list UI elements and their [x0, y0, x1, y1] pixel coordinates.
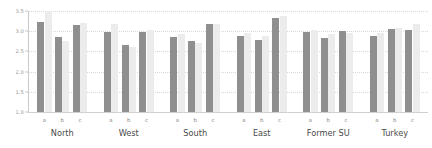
bar-subgroup [36, 11, 54, 112]
bar-subgroup [319, 11, 337, 112]
bar-subgroup [102, 11, 120, 112]
bar-subgroup [204, 11, 222, 112]
y-axis-tick-mark [25, 31, 28, 32]
y-axis-tick-label: 3.5 [15, 8, 24, 14]
bar [206, 24, 213, 112]
bar [328, 34, 335, 112]
subcategory-label: b [327, 117, 330, 123]
bar-subgroup [53, 11, 71, 112]
bar-subgroup [120, 11, 138, 112]
bar [321, 38, 328, 112]
bar-subgroup [337, 11, 355, 112]
bar [111, 24, 118, 112]
group-label: West [119, 128, 139, 138]
gridline [29, 112, 428, 114]
bar [73, 25, 80, 112]
bar [37, 22, 44, 112]
group-label: Former SU [307, 128, 350, 138]
subcategory-label: b [194, 117, 197, 123]
y-axis-tick-mark [25, 51, 28, 52]
subcategory-label: c [78, 117, 81, 123]
bar-subgroup [169, 11, 187, 112]
subcategory-label: b [61, 117, 64, 123]
y-axis-tick-mark [25, 71, 28, 72]
subcategory-label: c [411, 117, 414, 123]
bar [244, 33, 251, 112]
y-axis-tick-mark [25, 112, 28, 113]
bar [147, 30, 154, 112]
bar [255, 40, 262, 112]
subcategory-label: a [242, 117, 245, 123]
group-label: East [253, 128, 271, 138]
subcategory-label: c [344, 117, 347, 123]
bar-subgroup [253, 11, 271, 112]
subcategory-label: c [145, 117, 148, 123]
bar-subgroup [71, 11, 89, 112]
bar [280, 16, 287, 112]
subcategory-label: a [109, 117, 112, 123]
bar [405, 30, 412, 112]
subcategory-label: b [393, 117, 396, 123]
bar-subgroup [235, 11, 253, 112]
y-axis: 3.53.02.52.01.51.0 [0, 0, 28, 148]
y-axis-tick-mark [25, 91, 28, 92]
bar-group [29, 11, 96, 112]
bar [388, 29, 395, 112]
subcategory-label: a [309, 117, 312, 123]
bar [45, 11, 52, 112]
bar [129, 47, 136, 112]
bar [303, 32, 310, 112]
bar-group [162, 11, 229, 112]
bar-subgroup [404, 11, 422, 112]
subcategory-label: c [278, 117, 281, 123]
bar-subgroup [368, 11, 386, 112]
bar [188, 41, 195, 113]
bar [377, 33, 384, 112]
bar-subgroup [186, 11, 204, 112]
y-axis-tick-label: 2.5 [15, 48, 24, 54]
group-label: North [51, 128, 74, 138]
plot-area [29, 11, 428, 112]
group-label: South [183, 128, 207, 138]
y-axis-tick-label: 2.0 [15, 69, 24, 75]
bar [311, 30, 318, 112]
bar [122, 45, 129, 112]
subcategory-label: a [375, 117, 378, 123]
bar-group [362, 11, 429, 112]
bar-subgroup [271, 11, 289, 112]
y-axis-tick-label: 1.0 [15, 109, 24, 115]
y-axis-tick-label: 3.0 [15, 28, 24, 34]
bar [178, 34, 185, 112]
bar [339, 31, 346, 112]
subcategory-label: c [211, 117, 214, 123]
bar [370, 36, 377, 112]
bar [413, 24, 420, 112]
bar [170, 37, 177, 112]
subcategory-label: a [176, 117, 179, 123]
bar [55, 37, 62, 112]
group-label: Turkey [381, 128, 408, 138]
bar [213, 24, 220, 112]
bar [395, 28, 402, 112]
bar-subgroup [302, 11, 320, 112]
subcategory-label: b [127, 117, 130, 123]
bar [346, 33, 353, 112]
bar [262, 36, 269, 112]
bar-subgroup [386, 11, 404, 112]
bar [139, 32, 146, 112]
subcategory-label: b [260, 117, 263, 123]
y-axis-tick-label: 1.5 [15, 89, 24, 95]
subcategory-label: a [43, 117, 46, 123]
bar [237, 36, 244, 112]
bar [62, 41, 69, 112]
bar [104, 32, 111, 112]
bar [80, 23, 87, 112]
bar-group [96, 11, 163, 112]
bar [195, 43, 202, 112]
bar-group [229, 11, 296, 112]
bar-chart: 3.53.02.52.01.51.0 abcabcabcabcabcabc No… [0, 0, 432, 148]
bar-group [295, 11, 362, 112]
bar [272, 18, 279, 112]
y-axis-tick-mark [25, 11, 28, 12]
bar-subgroup [138, 11, 156, 112]
